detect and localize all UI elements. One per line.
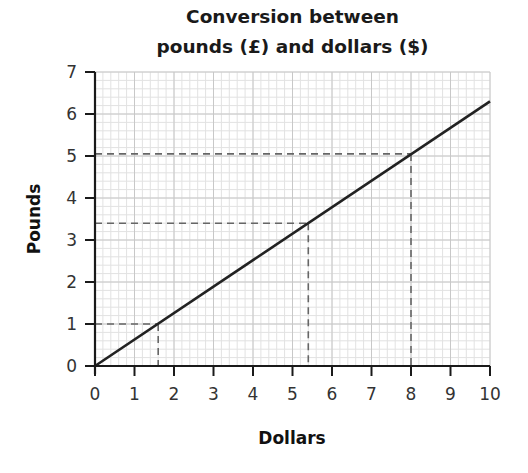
x-tick-label: 2 — [169, 384, 180, 404]
x-tick-label: 8 — [406, 384, 417, 404]
x-tick-label: 10 — [479, 384, 501, 404]
y-tick-label: 7 — [66, 62, 77, 82]
y-tick-label: 6 — [66, 104, 77, 124]
y-tick-label: 4 — [66, 188, 77, 208]
x-axis-ticks: 012345678910 — [90, 366, 501, 404]
y-axis-ticks: 01234567 — [66, 62, 95, 376]
y-tick-label: 1 — [66, 314, 77, 334]
y-tick-label: 2 — [66, 272, 77, 292]
y-tick-label: 5 — [66, 146, 77, 166]
x-tick-label: 9 — [445, 384, 456, 404]
x-tick-label: 1 — [129, 384, 140, 404]
y-tick-label: 0 — [66, 356, 77, 376]
x-tick-label: 3 — [208, 384, 219, 404]
x-tick-label: 0 — [90, 384, 101, 404]
chart-plot: 012345678910 01234567 Dollars Pounds — [0, 0, 528, 473]
x-tick-label: 4 — [248, 384, 259, 404]
grid-major — [95, 72, 490, 366]
x-tick-label: 6 — [327, 384, 338, 404]
y-tick-label: 3 — [66, 230, 77, 250]
x-axis-label: Dollars — [258, 428, 325, 448]
x-tick-label: 5 — [287, 384, 298, 404]
y-axis-label: Pounds — [24, 184, 44, 255]
x-tick-label: 7 — [366, 384, 377, 404]
